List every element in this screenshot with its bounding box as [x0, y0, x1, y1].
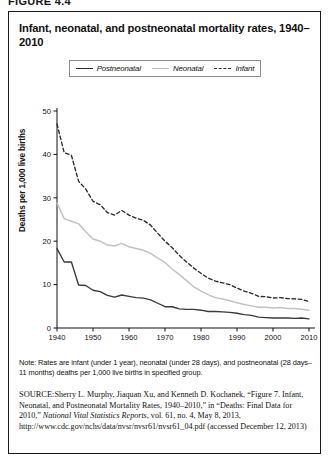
figure-note: Note: Rates are infant (under 1 year), n…: [19, 358, 315, 377]
svg-text:1970: 1970: [157, 333, 174, 342]
svg-text:30: 30: [43, 194, 51, 203]
svg-text:1990: 1990: [229, 333, 246, 342]
figure-box: Infant, neonatal, and postneonatal morta…: [8, 11, 321, 454]
y-axis-label: Deaths per 1,000 live births: [18, 128, 27, 232]
figure-screenshot: FIGURE 4.4 Infant, neonatal, and postneo…: [0, 0, 329, 462]
svg-text:40: 40: [43, 150, 51, 159]
svg-text:50: 50: [43, 107, 51, 116]
figure-source: SOURCE:Sherry L. Murphy, Jiaquan Xu, and…: [19, 390, 315, 432]
source-kicker: SOURCE:: [19, 390, 54, 399]
svg-text:1980: 1980: [193, 333, 210, 342]
svg-text:2010: 2010: [301, 333, 318, 342]
chart-plot-area: 0102030405019401950196019701980199020002…: [9, 12, 322, 455]
series-line-neonatal: [57, 203, 309, 310]
series-line-infant: [57, 124, 309, 302]
svg-text:1960: 1960: [121, 333, 138, 342]
source-italic-title: National Vital Statistics Reports: [43, 411, 147, 420]
svg-text:20: 20: [43, 237, 51, 246]
svg-text:1950: 1950: [85, 333, 102, 342]
line-chart: 0102030405019401950196019701980199020002…: [9, 12, 322, 352]
chart-series: [57, 124, 309, 319]
svg-text:2000: 2000: [265, 333, 282, 342]
figure-number: FIGURE 4.4: [8, 0, 71, 7]
svg-text:1940: 1940: [49, 333, 66, 342]
svg-text:0: 0: [47, 324, 51, 333]
chart-axes: 0102030405019401950196019701980199020002…: [43, 107, 318, 342]
svg-text:10: 10: [43, 280, 51, 289]
